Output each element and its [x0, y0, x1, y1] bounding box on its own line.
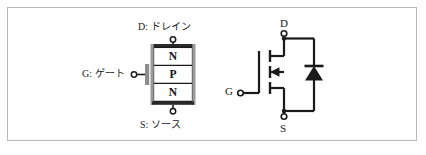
structure-source-label: S: ソース — [140, 120, 181, 130]
structure-right-edge-shade — [192, 44, 195, 105]
symbol-drain-label: D — [280, 18, 288, 29]
structure-source-contact-bar — [152, 101, 194, 104]
symbol-source-label: S — [280, 123, 286, 134]
structure-gate-label: G: ゲート — [82, 69, 125, 79]
symbol-gate-label: G — [225, 86, 233, 97]
structure-drain-terminal — [170, 37, 175, 42]
structure-drain-label: D: ドレイン — [138, 22, 191, 32]
symbol-gate-terminal — [238, 90, 244, 96]
structure-gate-terminal — [131, 72, 136, 77]
figure-drawing — [0, 0, 426, 155]
symbol-body-arrow — [270, 67, 280, 77]
mosfet-figure: D: ドレイン G: ゲート S: ソース N P N D G S — [0, 0, 426, 155]
structure-region-letter-n-bottom: N — [154, 87, 192, 99]
structure-gate-plate — [145, 64, 149, 85]
symbol-drain-terminal — [281, 31, 287, 37]
structure-region-letter-n-top: N — [154, 51, 192, 63]
symbol-source-terminal — [281, 114, 287, 120]
symbol-junction-dot-source — [282, 109, 286, 113]
symbol-diode-triangle — [305, 66, 323, 81]
symbol-junction-dot-drain — [282, 36, 286, 40]
structure-source-terminal — [170, 109, 175, 114]
structure-region-letter-p: P — [154, 69, 192, 81]
